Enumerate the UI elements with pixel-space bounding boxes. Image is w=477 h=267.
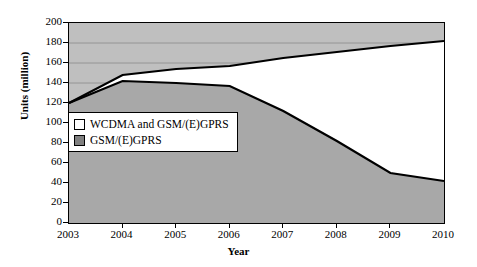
legend-swatch-icon: [74, 135, 85, 146]
y-tick-label: 20: [36, 196, 62, 207]
x-tick-label: 2004: [100, 228, 144, 240]
y-tick-label: 160: [36, 56, 62, 67]
x-tick-label: 2007: [260, 228, 304, 240]
y-tick-label: 40: [36, 176, 62, 187]
y-tick-label: 100: [36, 116, 62, 127]
x-axis-title: Year: [0, 245, 477, 257]
y-tick-label: 0: [36, 216, 62, 227]
legend-item: GSM/(E)GPRS: [74, 132, 229, 148]
area-chart: Units (million) 020406080100120140160180…: [0, 0, 477, 267]
chart-legend: WCDMA and GSM/(E)GPRSGSM/(E)GPRS: [68, 112, 238, 152]
x-tick-label: 2003: [46, 228, 90, 240]
y-tick-label: 60: [36, 156, 62, 167]
x-axis-tick-labels: 20032004200520062007200820092010: [0, 228, 477, 244]
y-axis-title: Units (million): [18, 16, 30, 156]
legend-label: WCDMA and GSM/(E)GPRS: [90, 118, 229, 130]
y-axis-tick-labels: 020406080100120140160180200: [30, 0, 62, 267]
x-tick-label: 2005: [153, 228, 197, 240]
x-tick-label: 2006: [207, 228, 251, 240]
x-tick-label: 2008: [314, 228, 358, 240]
x-tick-label: 2009: [367, 228, 411, 240]
x-tick-label: 2010: [421, 228, 465, 240]
y-tick-label: 140: [36, 76, 62, 87]
legend-label: GSM/(E)GPRS: [90, 134, 162, 146]
y-tick-label: 180: [36, 36, 62, 47]
legend-item: WCDMA and GSM/(E)GPRS: [74, 116, 229, 132]
y-tick-label: 120: [36, 96, 62, 107]
legend-swatch-icon: [74, 119, 85, 130]
y-tick-label: 80: [36, 136, 62, 147]
y-tick-label: 200: [36, 16, 62, 27]
